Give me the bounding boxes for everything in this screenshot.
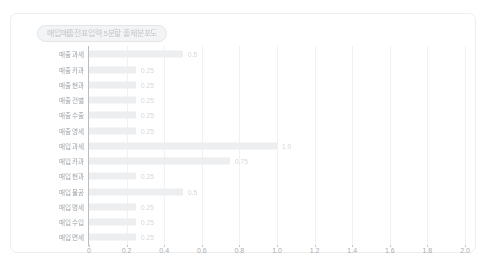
bar[interactable]	[89, 173, 136, 180]
bar-category-label: 매입 명세	[59, 202, 84, 212]
bar-category-label: 매출 과세	[59, 49, 84, 59]
x-axis-tick-mark	[352, 245, 353, 247]
bar[interactable]	[89, 203, 136, 210]
x-axis-tick-mark	[427, 245, 428, 247]
bar[interactable]	[89, 127, 136, 134]
bar-row[interactable]: 매입 면세0.25	[10, 230, 476, 245]
bar-category-label: 매출 건별	[59, 95, 84, 105]
x-axis-tick-mark	[127, 245, 128, 247]
bar-row[interactable]: 매출 수출0.25	[10, 108, 476, 123]
x-axis-tick-mark	[277, 245, 278, 247]
bar-row[interactable]: 매출 건별0.25	[10, 93, 476, 108]
bar-row[interactable]: 매입 명세0.25	[10, 200, 476, 215]
x-axis-tick-mark	[202, 245, 203, 247]
bar-row[interactable]: 매입 수입0.25	[10, 215, 476, 230]
x-axis-tick-label: 0.6	[197, 247, 207, 254]
bar-row[interactable]: 매출 과세0.5	[10, 47, 476, 62]
bar-value-label: 0.5	[188, 51, 197, 58]
bar-value-label: 0.75	[235, 158, 248, 165]
bar-category-label: 매출 현과	[59, 80, 84, 90]
x-axis-tick-mark	[89, 245, 90, 247]
x-axis-tick-mark	[164, 245, 165, 247]
bar-value-label: 0.25	[141, 234, 154, 241]
bar-row[interactable]: 매출 현과0.25	[10, 78, 476, 93]
bar[interactable]	[89, 97, 136, 104]
x-axis-tick-mark	[239, 245, 240, 247]
x-axis-tick-label: 0.4	[159, 247, 169, 254]
bar-value-label: 0.25	[141, 112, 154, 119]
bar-category-label: 매입 면세	[59, 232, 84, 242]
bar-row[interactable]: 매출 영세0.25	[10, 123, 476, 138]
bar-category-label: 매입 현과	[59, 171, 84, 181]
bar-category-label: 매출 수출	[59, 110, 84, 120]
bar-value-label: 0.25	[141, 203, 154, 210]
bar-row[interactable]: 매출 카과0.25	[10, 62, 476, 77]
chart-title-badge: 매입매출전표입력 5분할 출제분포도	[37, 25, 167, 42]
x-axis: 00.20.40.60.81.01.21.41.61.82.0	[10, 247, 476, 261]
x-axis-tick-label: 1.4	[347, 247, 357, 254]
bar[interactable]	[89, 158, 230, 165]
chart-title: 매입매출전표입력 5분할 출제분포도	[47, 30, 157, 38]
bar[interactable]	[89, 219, 136, 226]
bar-chart: 매출 과세0.5매출 카과0.25매출 현과0.25매출 건별0.25매출 수출…	[10, 13, 476, 253]
bar-value-label: 0.5	[188, 188, 197, 195]
x-axis-tick-label: 0.2	[122, 247, 132, 254]
x-axis-tick-mark	[315, 245, 316, 247]
bar-value-label: 1.0	[282, 142, 291, 149]
x-axis-tick-label: 0	[87, 247, 91, 254]
x-axis-tick-label: 2.0	[460, 247, 470, 254]
bar-row[interactable]: 매입 카과0.75	[10, 154, 476, 169]
bar-value-label: 0.25	[141, 97, 154, 104]
bar-row[interactable]: 매입 과세1.0	[10, 139, 476, 154]
x-axis-tick-label: 1.0	[272, 247, 282, 254]
bar-category-label: 매입 수입	[59, 217, 84, 227]
bar[interactable]	[89, 51, 183, 58]
bar[interactable]	[89, 234, 136, 241]
bar[interactable]	[89, 81, 136, 88]
bar-category-label: 매출 영세	[59, 126, 84, 136]
bar-category-label: 매출 카과	[59, 65, 84, 75]
x-axis-tick-mark	[465, 245, 466, 247]
bar[interactable]	[89, 112, 136, 119]
x-axis-tick-label: 0.8	[235, 247, 245, 254]
x-axis-tick-label: 1.8	[423, 247, 433, 254]
bar-category-label: 매입 과세	[59, 141, 84, 151]
bar-value-label: 0.25	[141, 173, 154, 180]
bar[interactable]	[89, 188, 183, 195]
x-axis-tick-label: 1.6	[385, 247, 395, 254]
bar-value-label: 0.25	[141, 81, 154, 88]
x-axis-tick-label: 1.2	[310, 247, 320, 254]
bar-value-label: 0.25	[141, 219, 154, 226]
bar-category-label: 매입 카과	[59, 156, 84, 166]
bar-row[interactable]: 매입 현과0.25	[10, 169, 476, 184]
bar-value-label: 0.25	[141, 127, 154, 134]
bar-row[interactable]: 매입 불공0.5	[10, 184, 476, 199]
bar[interactable]	[89, 142, 277, 149]
x-axis-tick-mark	[390, 245, 391, 247]
bar[interactable]	[89, 66, 136, 73]
bar-category-label: 매입 불공	[59, 187, 84, 197]
bar-value-label: 0.25	[141, 66, 154, 73]
